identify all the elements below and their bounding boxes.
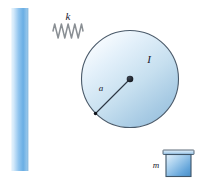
hanging-block: m (153, 150, 194, 177)
block-body (166, 155, 191, 177)
spring-assembly: k (28, 10, 99, 38)
wall-column (12, 8, 28, 171)
pulley-disk: I a (82, 31, 179, 128)
block-top-lip (163, 150, 194, 155)
spring-stiffness-label: k (66, 10, 72, 22)
radius-label: a (99, 83, 104, 93)
wall-support (12, 8, 28, 171)
physics-diagram-figure: k I a m (0, 0, 197, 179)
spring-coils (53, 24, 83, 38)
radius-rim-point (94, 112, 97, 115)
diagram-canvas: k I a m (0, 0, 197, 179)
disk-center-hub (127, 76, 134, 83)
mass-label: m (153, 160, 160, 170)
